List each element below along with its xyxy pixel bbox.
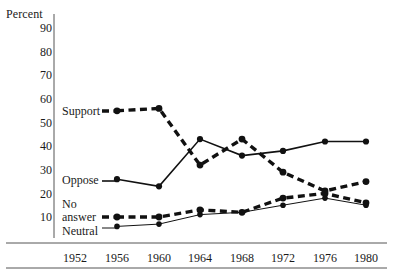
data-point [239, 136, 246, 143]
data-point [363, 178, 370, 185]
data-point [156, 214, 163, 221]
series-support-line [117, 108, 366, 191]
line-chart: Percent 90 80 70 60 50 40 30 20 10 1952 … [0, 0, 393, 274]
data-point [322, 190, 329, 197]
data-point [156, 183, 162, 189]
series-oppose-markers [114, 136, 369, 189]
data-point [363, 138, 369, 144]
series-support [114, 105, 370, 194]
data-point [239, 153, 245, 159]
series-oppose [114, 136, 369, 189]
data-point [197, 136, 203, 142]
data-point [322, 138, 328, 144]
series-no-answer [114, 190, 370, 220]
data-point [156, 221, 162, 227]
data-point [197, 207, 204, 214]
series-support-markers [114, 105, 370, 194]
data-point [280, 169, 287, 176]
data-point [239, 209, 246, 216]
legend-swatches [102, 111, 118, 228]
chart-canvas [0, 0, 393, 274]
data-point [280, 148, 286, 154]
data-point [280, 195, 287, 202]
data-point [197, 162, 204, 169]
data-point [363, 199, 370, 206]
series-oppose-line [117, 139, 366, 186]
data-point [156, 105, 163, 112]
data-point [280, 202, 286, 208]
